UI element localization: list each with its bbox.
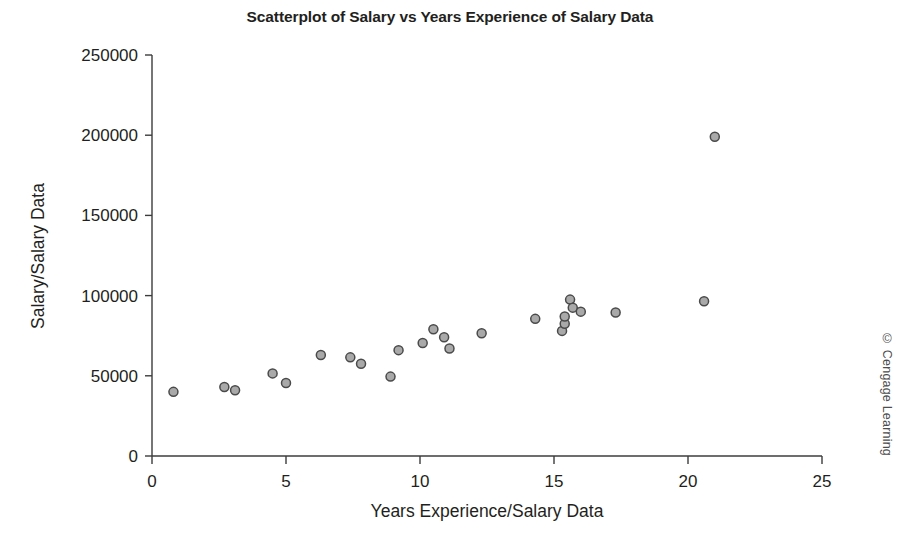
x-tick-label: 20 xyxy=(679,472,698,491)
data-point xyxy=(346,353,355,362)
data-point xyxy=(531,314,540,323)
scatterplot-figure: Scatterplot of Salary vs Years Experienc… xyxy=(0,0,900,534)
x-axis-title: Years Experience/Salary Data xyxy=(371,501,604,521)
data-point xyxy=(220,383,229,392)
data-point xyxy=(316,350,325,359)
data-point-series xyxy=(169,132,719,396)
y-tick-label: 100000 xyxy=(81,287,138,306)
x-tick-label: 25 xyxy=(813,472,832,491)
data-point xyxy=(357,359,366,368)
x-tick-label: 5 xyxy=(281,472,290,491)
data-point xyxy=(576,307,585,316)
data-point xyxy=(386,372,395,381)
x-tick-label: 15 xyxy=(545,472,564,491)
y-tick-label: 250000 xyxy=(81,46,138,65)
data-point xyxy=(611,308,620,317)
y-tick-marks xyxy=(145,55,152,456)
data-point xyxy=(700,297,709,306)
data-point xyxy=(418,338,427,347)
data-point xyxy=(231,386,240,395)
y-tick-label: 200000 xyxy=(81,126,138,145)
data-point xyxy=(282,379,291,388)
x-tick-labels: 0510152025 xyxy=(147,472,831,491)
y-tick-labels: 050000100000150000200000250000 xyxy=(81,46,138,466)
data-point xyxy=(440,333,449,342)
x-tick-marks xyxy=(152,456,822,464)
data-point xyxy=(394,346,403,355)
y-axis: 050000100000150000200000250000 xyxy=(81,46,152,466)
y-tick-label: 150000 xyxy=(81,206,138,225)
copyright-credit: © Cengage Learning xyxy=(880,332,894,456)
x-axis: 0510152025 xyxy=(147,456,831,491)
data-point xyxy=(429,325,438,334)
y-axis-title: Salary/Salary Data xyxy=(28,183,48,329)
data-point xyxy=(710,132,719,141)
x-tick-label: 0 xyxy=(147,472,156,491)
data-point xyxy=(560,312,569,321)
x-tick-label: 10 xyxy=(411,472,430,491)
plot-canvas: 050000100000150000200000250000 051015202… xyxy=(0,0,900,534)
y-tick-label: 50000 xyxy=(91,367,138,386)
data-point xyxy=(268,369,277,378)
data-point xyxy=(477,329,486,338)
y-tick-label: 0 xyxy=(129,447,138,466)
data-point xyxy=(169,387,178,396)
data-point xyxy=(445,344,454,353)
